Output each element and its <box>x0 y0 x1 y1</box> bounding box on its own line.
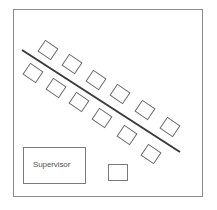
floor-plan-diagram: Supervisor <box>0 0 217 210</box>
supervisor-desk: Supervisor <box>23 147 86 184</box>
supervisor-label: Supervisor <box>33 160 70 169</box>
small-desk <box>108 164 128 181</box>
